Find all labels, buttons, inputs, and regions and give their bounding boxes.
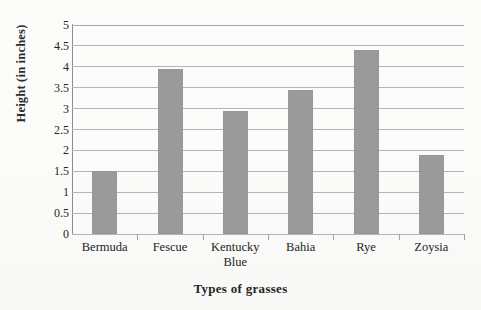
y-axis-tick-label: 4.5 [40, 38, 69, 53]
y-axis-tick-label: 1.5 [40, 164, 69, 179]
y-axis-tick-label: 4 [40, 59, 69, 74]
y-axis-tick-label: 1 [40, 185, 69, 200]
x-axis-tick [464, 234, 465, 240]
y-axis-tick-label: 2.5 [40, 122, 69, 137]
gridline [72, 150, 464, 151]
category-label: Rye [333, 240, 398, 255]
plot-area [72, 25, 464, 234]
gridline [72, 171, 464, 172]
y-axis-tick-label: 3.5 [40, 80, 69, 95]
chart-canvas: Height (in inches) 54.543.532.521.510.50… [0, 0, 481, 310]
gridline [72, 192, 464, 193]
gridline [72, 45, 464, 46]
category-label-line: Bahia [268, 240, 333, 255]
gridline [72, 129, 464, 130]
y-axis-tick-label: 3 [40, 101, 69, 116]
category-label: Fescue [137, 240, 202, 255]
category-label: Bermuda [72, 240, 137, 255]
category-label: Bahia [268, 240, 333, 255]
y-axis-tick-label: 2 [40, 143, 69, 158]
y-axis-title: Height (in inches) [14, 9, 29, 139]
category-label: Zoysia [399, 240, 464, 255]
category-label-line: Bermuda [72, 240, 137, 255]
category-label-line: Kentucky [203, 240, 268, 255]
bar-bermuda [92, 171, 117, 234]
bar-kentucky-blue [223, 111, 248, 234]
category-label-line: Rye [333, 240, 398, 255]
gridline [72, 25, 464, 26]
y-axis-tick-labels: 54.543.532.521.510.50 [40, 25, 69, 234]
category-label-line: Fescue [137, 240, 202, 255]
category-label: KentuckyBlue [203, 240, 268, 270]
y-axis-tick-label: 0 [40, 227, 69, 242]
category-label-line: Blue [203, 255, 268, 270]
x-axis-category-labels: BermudaFescueKentuckyBlueBahiaRyeZoysia [72, 240, 464, 280]
gridline [72, 108, 464, 109]
gridline [72, 213, 464, 214]
bar-bahia [288, 90, 313, 234]
bar-rye [354, 50, 379, 234]
gridline [72, 66, 464, 67]
bar-zoysia [419, 155, 444, 234]
gridline [72, 87, 464, 88]
y-axis-tick-label: 5 [40, 18, 69, 33]
category-label-line: Zoysia [399, 240, 464, 255]
bar-fescue [158, 69, 183, 234]
y-axis-tick-label: 0.5 [40, 206, 69, 221]
x-axis-title: Types of grasses [0, 281, 481, 297]
